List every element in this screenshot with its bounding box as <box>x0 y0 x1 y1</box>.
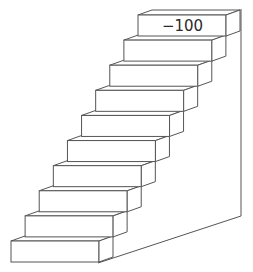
top-step-label: −100 <box>162 17 203 35</box>
step-3 <box>39 186 141 212</box>
step-8 <box>110 60 212 86</box>
step-4 <box>53 161 155 187</box>
steps <box>11 10 240 262</box>
step-5 <box>67 136 169 162</box>
step-7 <box>96 85 198 111</box>
staircase-diagram: −100 <box>0 0 253 272</box>
step-9 <box>124 35 226 61</box>
step-1 <box>11 236 113 262</box>
step-6 <box>82 110 184 136</box>
step-2 <box>25 211 127 237</box>
